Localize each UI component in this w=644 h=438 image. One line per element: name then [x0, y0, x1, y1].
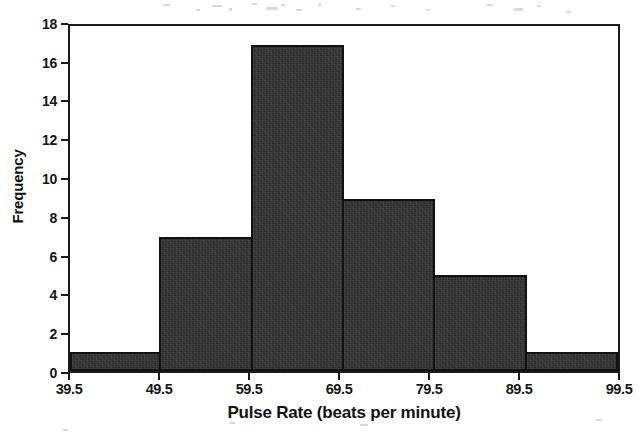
histogram-bar — [342, 199, 435, 372]
y-tick-label: 4 — [50, 286, 58, 304]
histogram-bar — [70, 352, 161, 371]
x-tick-label: 99.5 — [585, 381, 644, 397]
y-tick-mark — [61, 62, 68, 64]
x-tick-label: 49.5 — [125, 381, 193, 397]
histogram-bar — [525, 352, 618, 371]
x-tick-mark — [428, 373, 430, 380]
y-axis-title: Frequency — [9, 127, 26, 247]
y-tick-mark — [61, 178, 68, 180]
y-tick-mark — [61, 372, 68, 374]
plot-area — [68, 24, 620, 373]
x-tick-mark — [618, 373, 620, 380]
y-tick-label: 14 — [42, 92, 57, 110]
histogram-figure: 0 2 4 6 8 10 12 14 16 18 39.5 4 — [0, 0, 644, 438]
y-tick-mark — [61, 294, 68, 296]
y-tick-mark — [61, 23, 68, 25]
y-tick-label: 2 — [50, 325, 58, 343]
x-tick-label: 79.5 — [395, 381, 463, 397]
x-tick-mark — [68, 373, 70, 380]
x-tick-mark — [248, 373, 250, 380]
y-tick-label: 6 — [50, 248, 58, 266]
y-tick-label: 16 — [42, 54, 57, 72]
histogram-bar — [433, 275, 526, 371]
y-tick-mark — [61, 333, 68, 335]
x-tick-label: 69.5 — [305, 381, 373, 397]
x-axis-title: Pulse Rate (beats per minute) — [68, 403, 620, 423]
y-tick-label: 12 — [42, 131, 57, 149]
y-tick-label: 18 — [42, 15, 57, 33]
x-tick-label: 59.5 — [215, 381, 283, 397]
y-tick-label: 8 — [50, 209, 58, 227]
y-tick-mark — [61, 139, 68, 141]
x-tick-mark — [158, 373, 160, 380]
x-tick-mark — [518, 373, 520, 380]
histogram-bar — [159, 237, 252, 371]
y-tick-mark — [61, 256, 68, 258]
y-tick-mark — [61, 100, 68, 102]
y-tick-label: 0 — [50, 364, 58, 382]
y-tick-label: 10 — [42, 170, 57, 188]
x-tick-label: 89.5 — [485, 381, 553, 397]
x-tick-mark — [338, 373, 340, 380]
x-tick-label: 39.5 — [35, 381, 103, 397]
histogram-bar — [251, 45, 344, 371]
y-tick-mark — [61, 217, 68, 219]
